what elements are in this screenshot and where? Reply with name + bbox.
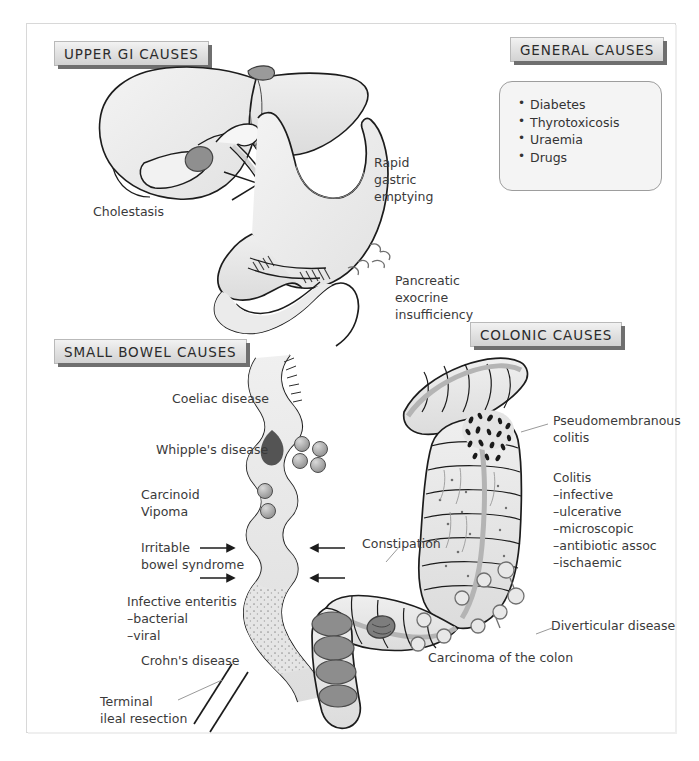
label-pseudomembranous-colitis-line2: colitis <box>553 430 589 447</box>
label-colitis-infective: –infective <box>553 487 613 504</box>
list-item: Diabetes <box>518 96 661 114</box>
list-item: Drugs <box>518 149 661 167</box>
label-colitis-microscopic: –microscopic <box>553 521 634 538</box>
label-rapid-gastric-emptying-line1: Rapid <box>374 155 409 172</box>
label-terminal-ileal-resection-line2: ileal resection <box>100 711 187 728</box>
label-colitis-ulcerative: –ulcerative <box>553 504 621 521</box>
label-vipoma: Vipoma <box>141 504 188 521</box>
label-cholestasis: Cholestasis <box>93 204 164 221</box>
label-colitis-antibiotic-assoc: –antibiotic assoc <box>553 538 657 555</box>
label-coeliac-disease: Coeliac disease <box>172 391 269 408</box>
label-rapid-gastric-emptying-line3: emptying <box>374 189 433 206</box>
label-colitis-ischaemic: –ischaemic <box>553 555 622 572</box>
label-colitis-title: Colitis <box>553 470 591 487</box>
banner-upper-gi-causes: UPPER GI CAUSES <box>54 41 209 66</box>
label-whipples-disease: Whipple's disease <box>156 442 268 459</box>
label-diverticular-disease: Diverticular disease <box>551 618 675 635</box>
banner-colonic-causes: COLONIC CAUSES <box>470 322 622 347</box>
label-pseudomembranous-colitis-line1: Pseudomembranous <box>553 413 681 430</box>
label-pancreatic-insufficiency-line3: insufficiency <box>395 307 473 324</box>
general-causes-box: Diabetes Thyrotoxicosis Uraemia Drugs <box>499 81 662 191</box>
label-terminal-ileal-resection-line1: Terminal <box>100 694 153 711</box>
label-crohns-disease: Crohn's disease <box>141 653 239 670</box>
banner-upper-gi-label: UPPER GI CAUSES <box>64 46 199 62</box>
label-infective-enteritis: Infective enteritis <box>127 594 237 611</box>
list-item: Thyrotoxicosis <box>518 114 661 132</box>
general-causes-list: Diabetes Thyrotoxicosis Uraemia Drugs <box>518 96 661 166</box>
banner-colonic-label: COLONIC CAUSES <box>480 327 612 343</box>
label-pancreatic-insufficiency-line2: exocrine <box>395 290 448 307</box>
label-enteritis-bacterial: –bacterial <box>127 611 188 628</box>
label-carcinoid: Carcinoid <box>141 487 200 504</box>
banner-general-causes: GENERAL CAUSES <box>510 37 664 62</box>
label-carcinoma-of-the-colon: Carcinoma of the colon <box>428 650 573 667</box>
banner-small-bowel-causes: SMALL BOWEL CAUSES <box>54 339 247 364</box>
label-rapid-gastric-emptying-line2: gastric <box>374 172 417 189</box>
label-enteritis-viral: –viral <box>127 628 160 645</box>
banner-general-label: GENERAL CAUSES <box>520 42 654 58</box>
banner-small-bowel-label: SMALL BOWEL CAUSES <box>64 344 237 360</box>
label-ibs-line2: bowel syndrome <box>141 557 244 574</box>
label-constipation: Constipation <box>362 536 441 553</box>
label-pancreatic-insufficiency-line1: Pancreatic <box>395 273 460 290</box>
list-item: Uraemia <box>518 131 661 149</box>
label-ibs-line1: Irritable <box>141 540 190 557</box>
